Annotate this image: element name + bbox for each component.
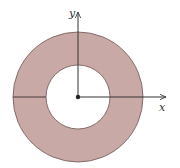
y-axis-label: y xyxy=(68,7,76,20)
x-axis-label: x xyxy=(159,101,166,114)
annulus-diagram: y x xyxy=(0,0,180,168)
origin-dot xyxy=(76,95,80,99)
